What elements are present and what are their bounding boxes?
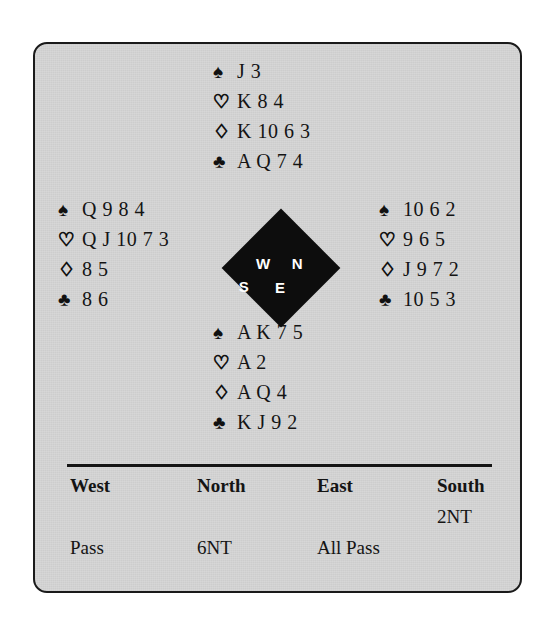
- hand-east: ♠ 10 6 2 ♡ 9 6 5 ♢ J 9 7 2 ♣ 10 5 3: [379, 199, 459, 319]
- hand-south-spades-row: ♠ A K 7 5: [213, 322, 303, 352]
- club-icon: ♣: [379, 290, 403, 309]
- hand-west-hearts-row: ♡ Q J 10 7 3: [58, 229, 169, 259]
- hand-south-spades: A K 7 5: [237, 322, 303, 342]
- hand-east-spades-row: ♠ 10 6 2: [379, 199, 459, 229]
- hand-east-hearts: 9 6 5: [403, 229, 446, 249]
- hand-east-diamonds-row: ♢ J 9 7 2: [379, 259, 459, 289]
- auction-header-west: West: [70, 476, 110, 495]
- club-icon: ♣: [213, 413, 237, 432]
- hand-west-spades-row: ♠ Q 9 8 4: [58, 199, 169, 229]
- hand-east-spades: 10 6 2: [403, 199, 456, 219]
- hand-east-clubs: 10 5 3: [403, 289, 456, 309]
- bridge-deal-diagram: ♠ J 3 ♡ K 8 4 ♢ K 10 6 3 ♣ A Q 7 4 ♠ Q 9…: [33, 42, 522, 593]
- hand-south: ♠ A K 7 5 ♡ A 2 ♢ A Q 4 ♣ K J 9 2: [213, 322, 303, 442]
- hand-west-clubs: 8 6: [82, 289, 109, 309]
- hand-west-spades: Q 9 8 4: [82, 199, 145, 219]
- auction-bid-south: 2NT: [437, 507, 472, 526]
- auction-bid-north: 6NT: [197, 538, 232, 557]
- heart-icon: ♡: [213, 353, 237, 372]
- spade-icon: ♠: [379, 200, 403, 219]
- hand-south-diamonds-row: ♢ A Q 4: [213, 382, 303, 412]
- hand-north-clubs-row: ♣ A Q 7 4: [213, 151, 310, 181]
- compass-south-label: S: [239, 279, 249, 294]
- auction-header-north: North: [197, 476, 246, 495]
- auction-header-row: West North East South: [35, 476, 522, 507]
- hand-west-diamonds: 8 5: [82, 259, 109, 279]
- hand-north-clubs: A Q 7 4: [237, 151, 303, 171]
- heart-icon: ♡: [213, 92, 237, 111]
- heart-icon: ♡: [58, 230, 82, 249]
- hand-north-spades-row: ♠ J 3: [213, 61, 310, 91]
- compass-north-label: N: [292, 256, 303, 271]
- heart-icon: ♡: [379, 230, 403, 249]
- hand-east-hearts-row: ♡ 9 6 5: [379, 229, 459, 259]
- hand-north-spades: J 3: [237, 61, 261, 81]
- hand-west-clubs-row: ♣ 8 6: [58, 289, 169, 319]
- spade-icon: ♠: [58, 200, 82, 219]
- club-icon: ♣: [213, 152, 237, 171]
- compass-rose: N W E S: [222, 209, 341, 328]
- spade-icon: ♠: [213, 62, 237, 81]
- hand-north-diamonds: K 10 6 3: [237, 121, 310, 141]
- hand-north-diamonds-row: ♢ K 10 6 3: [213, 121, 310, 151]
- auction-table: West North East South 2NT Pass 6NT All P…: [35, 476, 522, 569]
- auction-divider: [67, 464, 492, 467]
- hand-south-clubs-row: ♣ K J 9 2: [213, 412, 303, 442]
- hand-south-hearts-row: ♡ A 2: [213, 352, 303, 382]
- hand-south-hearts: A 2: [237, 352, 267, 372]
- auction-header-south: South: [437, 476, 485, 495]
- auction-bid-row: 2NT: [35, 507, 522, 538]
- hand-north-hearts-row: ♡ K 8 4: [213, 91, 310, 121]
- compass-west-label: W: [256, 256, 270, 271]
- diamond-icon: ♢: [58, 260, 82, 279]
- auction-bid-east: All Pass: [317, 538, 380, 557]
- compass-east-label: E: [275, 280, 285, 295]
- spade-icon: ♠: [213, 323, 237, 342]
- hand-south-diamonds: A Q 4: [237, 382, 287, 402]
- diamond-icon: ♢: [213, 122, 237, 141]
- hand-north-hearts: K 8 4: [237, 91, 284, 111]
- hand-east-clubs-row: ♣ 10 5 3: [379, 289, 459, 319]
- hand-west: ♠ Q 9 8 4 ♡ Q J 10 7 3 ♢ 8 5 ♣ 8 6: [58, 199, 169, 319]
- auction-header-east: East: [317, 476, 353, 495]
- diamond-icon: ♢: [213, 383, 237, 402]
- hand-south-clubs: K J 9 2: [237, 412, 298, 432]
- auction-bid-west: Pass: [70, 538, 104, 557]
- auction-bid-row: Pass 6NT All Pass: [35, 538, 522, 569]
- diamond-icon: ♢: [379, 260, 403, 279]
- hand-west-diamonds-row: ♢ 8 5: [58, 259, 169, 289]
- club-icon: ♣: [58, 290, 82, 309]
- hand-north: ♠ J 3 ♡ K 8 4 ♢ K 10 6 3 ♣ A Q 7 4: [213, 61, 310, 181]
- hand-west-hearts: Q J 10 7 3: [82, 229, 169, 249]
- hand-east-diamonds: J 9 7 2: [403, 259, 459, 279]
